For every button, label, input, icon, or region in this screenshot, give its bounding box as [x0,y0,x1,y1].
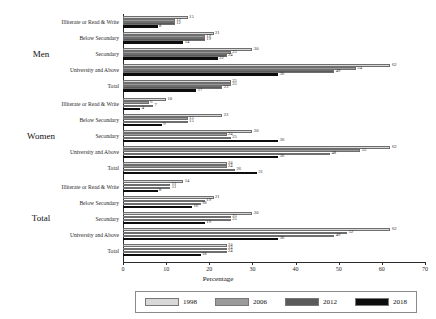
legend-item-1998[interactable]: 1998 [145,298,197,306]
x-axis-line [123,262,426,263]
category-label: University and Above [0,233,119,239]
category-label: Illiterate or Read & Write [0,102,119,108]
bar-value-label: 36 [280,236,285,241]
legend-label: 2012 [323,299,337,306]
bar-2018 [123,206,192,209]
bar-value-label: 62 [392,145,397,150]
category-label: Below Secondary [0,36,119,42]
x-tick [166,262,167,265]
bar-value-label: 31 [258,170,263,175]
legend-swatch-icon [215,298,249,306]
category-label: Total [0,249,119,255]
legend-swatch-icon [145,298,179,306]
category-label: Below Secondary [0,118,119,124]
bar-value-label: 54 [357,66,362,71]
bar-2018 [123,156,278,159]
bar-value-label: 22 [219,56,224,61]
x-tick-label: 20 [197,266,221,272]
bar-value-label: 52 [349,230,354,235]
bar-value-label: 36 [280,154,285,159]
bar-value-label: 7 [155,103,157,108]
category-label: University and Above [0,150,119,156]
bar-value-label: 14 [185,40,190,45]
x-axis-title: Percentage [0,276,436,283]
category-label: Illiterate or Read & Write [0,20,119,26]
bar-value-label: 12 [176,21,181,26]
bar-value-label: 19 [206,37,211,42]
bar-value-label: 9 [163,122,165,127]
bar-value-label: 62 [392,227,397,232]
bar-value-label: 4 [142,106,144,111]
category-label: Total [0,166,119,172]
bar-value-label: 36 [280,72,285,77]
bar-value-label: 36 [280,138,285,143]
bar-value-label: 25 [232,217,237,222]
legend-label: 2018 [393,299,407,306]
bar-2018 [123,41,183,44]
x-tick [296,262,297,265]
legend-label: 1998 [183,299,197,306]
bar-value-label: 10 [168,97,173,102]
bar-value-label: 14 [185,179,190,184]
bar-value-label: 49 [336,69,341,74]
bar-value-label: 30 [254,47,259,52]
x-tick [425,262,426,265]
bar-2018 [123,108,140,111]
bar-2018 [123,140,278,143]
bar-value-label: 19 [206,220,211,225]
bar-value-label: 30 [254,129,259,134]
legend-item-2012[interactable]: 2012 [285,298,337,306]
bar-2018 [123,190,158,193]
category-label: Illiterate or Read & Write [0,185,119,191]
bar-value-label: 23 [224,113,229,118]
x-tick [339,262,340,265]
bar-chart: Illiterate or Read & Write1512128Below S… [0,0,436,319]
x-tick [252,262,253,265]
x-tick [123,262,124,265]
bar-value-label: 21 [215,31,220,36]
bar-value-label: 48 [331,151,336,156]
x-tick-label: 10 [154,266,178,272]
bar-2018 [123,238,278,241]
x-tick-label: 40 [284,266,308,272]
bar-value-label: 62 [392,63,397,68]
bar-2018 [123,57,218,60]
category-label: Total [0,84,119,90]
bar-value-label: 21 [215,195,220,200]
x-tick-label: 50 [327,266,351,272]
bar-2018 [123,124,162,127]
bar-value-label: 11 [172,185,176,190]
bar-value-label: 23 [224,85,229,90]
bar-value-label: 49 [336,233,341,238]
bar-2018 [123,73,278,76]
chart-legend: 1998200620122018 [135,291,417,313]
category-label: Below Secondary [0,201,119,207]
bar-value-label: 8 [159,188,161,193]
legend-label: 2006 [253,299,267,306]
x-tick [382,262,383,265]
x-tick-label: 30 [240,266,264,272]
x-tick [209,262,210,265]
bar-value-label: 18 [202,252,207,257]
bar-value-label: 19 [206,198,211,203]
bar-value-label: 8 [159,24,161,29]
bar-value-label: 15 [189,119,194,124]
bar-value-label: 18 [202,201,207,206]
bar-2018 [123,172,257,175]
legend-swatch-icon [355,298,389,306]
bar-2018 [123,222,205,225]
category-label: University and Above [0,68,119,74]
bar-value-label: 15 [189,15,194,20]
bar-value-label: 30 [254,211,259,216]
legend-item-2018[interactable]: 2018 [355,298,407,306]
x-tick-label: 60 [370,266,394,272]
legend-item-2006[interactable]: 2006 [215,298,267,306]
group-label-men: Men [12,50,70,59]
bar-value-label: 17 [198,88,203,93]
bar-2018 [123,89,196,92]
x-tick-label: 0 [111,266,135,272]
bar-2018 [123,25,158,28]
bar-value-label: 24 [228,53,233,58]
bar-value-label: 24 [228,249,233,254]
group-label-total: Total [12,214,70,223]
